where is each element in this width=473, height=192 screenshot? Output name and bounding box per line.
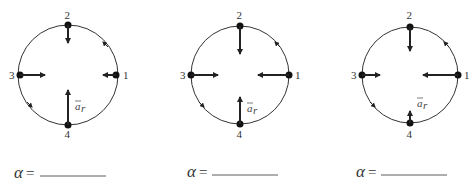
point-2-label: 2: [407, 9, 413, 21]
radial-accel-label: a r: [75, 100, 86, 114]
svg-text:α: α: [187, 162, 197, 181]
direction-arrow-icon: [445, 43, 449, 47]
svg-text:r: r: [81, 102, 86, 114]
point-4-label: 4: [237, 128, 243, 140]
circular-motion-figure: 2 1 3 4 a r α = 2 1: [0, 0, 473, 192]
point-1-label: 1: [295, 69, 301, 81]
alpha-answer-3[interactable]: α =: [356, 162, 447, 181]
svg-text:α: α: [356, 162, 366, 181]
point-3-label: 3: [351, 69, 357, 81]
point-3-label: 3: [9, 69, 15, 81]
alpha-answer-1[interactable]: α =: [14, 163, 106, 182]
point-2-label: 2: [65, 9, 71, 21]
point-2-label: 2: [237, 9, 243, 21]
direction-arrow-icon: [370, 102, 374, 106]
svg-text:=: =: [26, 165, 34, 181]
radial-accel-label: a r: [417, 97, 428, 111]
point-4-label: 4: [407, 128, 413, 140]
svg-text:=: =: [368, 164, 376, 180]
point-1-label: 1: [464, 69, 470, 81]
point-3-label: 3: [180, 69, 186, 81]
svg-text:r: r: [423, 99, 428, 111]
point-4-label: 4: [65, 128, 71, 140]
svg-text:r: r: [253, 104, 258, 116]
diagram-2: 2 1 3 4 a r α =: [180, 9, 301, 181]
svg-text:=: =: [199, 164, 207, 180]
diagram-3: 2 1 3 4 a r α =: [351, 9, 470, 181]
alpha-answer-2[interactable]: α =: [187, 162, 278, 181]
radial-accel-label: a r: [247, 102, 258, 116]
svg-text:α: α: [14, 163, 24, 182]
diagram-1: 2 1 3 4 a r α =: [9, 9, 129, 182]
point-1-label: 1: [123, 69, 129, 81]
